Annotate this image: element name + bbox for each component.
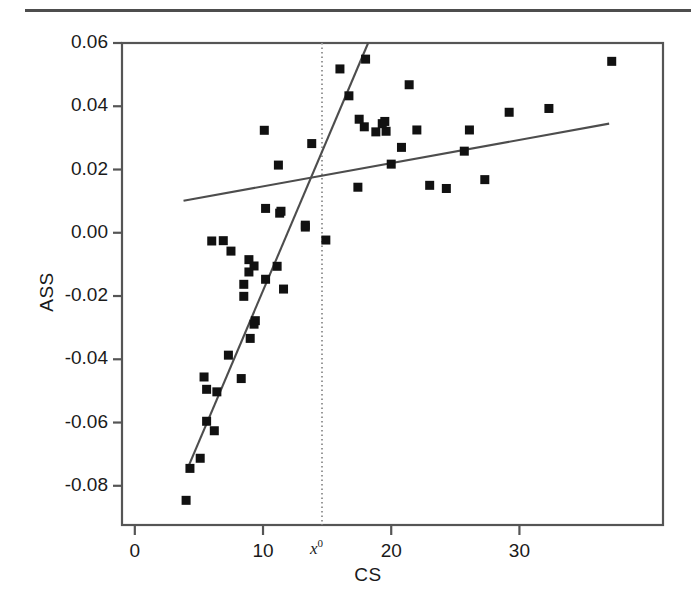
y-tick-label-5: -0.04 bbox=[30, 347, 108, 369]
data-point bbox=[260, 126, 269, 135]
y-tick-label-7: -0.08 bbox=[30, 474, 108, 496]
data-point bbox=[442, 184, 451, 193]
data-point bbox=[380, 117, 389, 126]
data-point bbox=[244, 255, 253, 264]
data-point bbox=[353, 183, 362, 192]
x-tick-label-1: 10 bbox=[233, 540, 293, 562]
data-point bbox=[371, 127, 380, 136]
data-point bbox=[210, 426, 219, 435]
data-point bbox=[361, 55, 370, 64]
data-point bbox=[226, 247, 235, 256]
upper-regime-fit bbox=[184, 124, 610, 201]
axes-frame bbox=[122, 43, 663, 525]
data-point bbox=[607, 57, 616, 66]
tick-marks bbox=[113, 43, 519, 535]
y-tick-label-3: 0.00 bbox=[30, 221, 108, 243]
data-point bbox=[279, 285, 288, 294]
x-tick-label-0: 0 bbox=[105, 540, 165, 562]
data-point bbox=[344, 91, 353, 100]
data-point bbox=[307, 139, 316, 148]
data-point bbox=[185, 464, 194, 473]
data-point bbox=[202, 385, 211, 394]
figure-container: ASS CS x0 0.060.040.020.00-0.02-0.04-0.0… bbox=[0, 0, 691, 603]
lower-regime-fit bbox=[189, 43, 368, 466]
data-point bbox=[182, 496, 191, 505]
data-point bbox=[276, 207, 285, 216]
data-point bbox=[544, 104, 553, 113]
data-point bbox=[196, 454, 205, 463]
data-point bbox=[219, 236, 228, 245]
x-tick-label-2: 20 bbox=[361, 540, 421, 562]
y-tick-label-1: 0.04 bbox=[30, 94, 108, 116]
y-tick-label-6: -0.06 bbox=[30, 411, 108, 433]
plot-frame bbox=[122, 43, 663, 525]
data-point bbox=[200, 372, 209, 381]
data-point bbox=[397, 143, 406, 152]
data-point bbox=[301, 221, 310, 230]
data-point bbox=[273, 262, 282, 271]
data-point bbox=[237, 374, 246, 383]
data-point bbox=[261, 275, 270, 284]
data-point bbox=[212, 387, 221, 396]
x-tick-label-3: 30 bbox=[489, 540, 549, 562]
data-point bbox=[505, 108, 514, 117]
data-point bbox=[387, 160, 396, 169]
data-point bbox=[224, 351, 233, 360]
data-point bbox=[246, 334, 255, 343]
data-point bbox=[261, 204, 270, 213]
data-point bbox=[321, 236, 330, 245]
data-point bbox=[465, 125, 474, 134]
data-point bbox=[412, 125, 421, 134]
y-tick-label-2: 0.02 bbox=[30, 158, 108, 180]
data-points bbox=[182, 55, 617, 505]
data-point bbox=[274, 161, 283, 170]
data-point bbox=[425, 181, 434, 190]
data-point bbox=[239, 280, 248, 289]
data-point bbox=[202, 417, 211, 426]
y-tick-label-0: 0.06 bbox=[30, 31, 108, 53]
data-point bbox=[355, 115, 364, 124]
data-point bbox=[405, 80, 414, 89]
data-point bbox=[250, 320, 259, 329]
data-point bbox=[207, 236, 216, 245]
data-point bbox=[335, 64, 344, 73]
y-tick-label-4: -0.02 bbox=[30, 284, 108, 306]
data-point bbox=[239, 292, 248, 301]
data-point bbox=[460, 147, 469, 156]
data-point bbox=[480, 175, 489, 184]
